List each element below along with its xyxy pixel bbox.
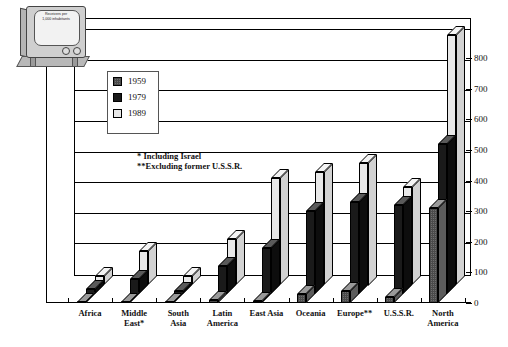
bar-1959-eastasia	[253, 301, 262, 303]
category-label-line: Middle	[112, 308, 156, 318]
value-axis-label: 200	[474, 238, 488, 247]
footnote-ussr: **Excluding former U.S.S.R.	[137, 161, 242, 171]
bar-side	[359, 193, 368, 294]
bar-side	[412, 178, 421, 285]
legend-swatch-1979	[113, 93, 122, 102]
chart-screenshot: 0100200300400500600700800 AfricaMiddleEa…	[0, 0, 508, 347]
television-icon: Receivers per 1,000 inhabitants	[18, 4, 94, 70]
category-label-line: East*	[112, 318, 156, 328]
bar-side	[368, 154, 377, 286]
legend-swatch-1959	[113, 77, 122, 86]
bar-side	[271, 239, 280, 294]
gridline	[75, 60, 470, 61]
tv-caption-line2: 1,000 inhabitants	[36, 17, 76, 22]
chart-legend: 1959 1979 1989	[107, 71, 159, 134]
bar-side	[236, 230, 245, 285]
plot-area	[46, 18, 471, 303]
legend-item-1989: 1989	[113, 109, 158, 118]
bar-face	[209, 300, 218, 303]
bar-face	[130, 279, 139, 294]
tv-knob	[73, 47, 81, 55]
value-axis-label: 400	[474, 177, 488, 186]
legend-item-1979: 1979	[113, 93, 158, 102]
bar-1979-eastasia	[262, 248, 271, 294]
bar-1959-oceania	[297, 294, 306, 303]
legend-swatch-1989	[113, 109, 122, 118]
value-axis-tick	[466, 119, 472, 120]
category-label-southasia: SouthAsia	[156, 308, 200, 328]
legend-label-1979: 1979	[128, 93, 146, 102]
value-axis-label: 300	[474, 207, 488, 216]
value-axis-label: 800	[474, 54, 488, 63]
bar-1959-ussr	[385, 297, 394, 303]
category-tick	[465, 298, 466, 303]
bar-side	[324, 163, 333, 285]
category-label-latinamerica: LatinAmerica	[200, 308, 244, 328]
value-axis-label: 100	[474, 268, 488, 277]
chart-footnotes: * Including Israel **Excluding former U.…	[137, 151, 242, 171]
value-axis-tick	[466, 211, 472, 212]
legend-item-1959: 1959	[113, 77, 158, 86]
category-tick	[421, 298, 422, 303]
category-label-line: North	[421, 308, 465, 318]
gridline	[75, 152, 470, 153]
category-tick	[377, 298, 378, 303]
bar-face	[262, 248, 271, 294]
category-label-northamerica: NorthAmerica	[421, 308, 465, 328]
gridline	[75, 29, 470, 30]
bar-side	[403, 196, 412, 294]
category-label-line: Asia	[156, 318, 200, 328]
bar-1979-middleeast	[130, 279, 139, 294]
bar-1979-oceania	[306, 211, 315, 294]
bar-side	[280, 169, 289, 285]
legend-label-1989: 1989	[128, 109, 146, 118]
bar-1959-latinamerica	[209, 300, 218, 303]
category-label-line: America	[200, 318, 244, 328]
value-axis-tick	[466, 272, 472, 273]
bar-face	[385, 297, 394, 303]
value-axis-label: 600	[474, 115, 488, 124]
bar-side	[315, 202, 324, 294]
category-tick	[156, 298, 157, 303]
value-axis-tick	[466, 58, 472, 59]
category-label-line: South	[156, 308, 200, 318]
value-axis-tick	[466, 150, 472, 151]
bar-1959-southasia	[165, 302, 174, 304]
tv-knob	[62, 47, 70, 55]
category-label-ussr: U.S.S.R.	[377, 308, 421, 318]
bar-1979-latinamerica	[218, 266, 227, 294]
value-axis-label: 0	[474, 299, 479, 308]
value-axis-tick	[466, 303, 472, 304]
bar-face	[394, 205, 403, 294]
bar-face	[306, 211, 315, 294]
bar-1959-europe	[341, 291, 350, 303]
value-axis-tick	[466, 242, 472, 243]
bar-side	[447, 135, 456, 294]
category-label-eastasia: East Asia	[244, 308, 288, 318]
value-axis-tick	[466, 89, 472, 90]
category-axis: AfricaMiddleEast*SouthAsiaLatinAmericaEa…	[46, 306, 471, 344]
value-axis-tick	[466, 181, 472, 182]
tv-screen-caption: Receivers per 1,000 inhabitants	[36, 12, 76, 21]
bar-1959-africa	[77, 302, 86, 304]
category-tick	[68, 298, 69, 303]
category-label-oceania: Oceania	[289, 308, 333, 318]
category-tick	[200, 298, 201, 303]
bar-1959-middleeast	[121, 302, 130, 304]
value-axis-label: 500	[474, 146, 488, 155]
category-label-middleeast: MiddleEast*	[112, 308, 156, 328]
bar-side	[456, 26, 465, 285]
value-axis-label: 700	[474, 85, 488, 94]
bar-face	[218, 266, 227, 294]
category-tick	[289, 298, 290, 303]
category-label-africa: Africa	[68, 308, 112, 318]
bar-1979-europe	[350, 202, 359, 294]
value-axis: 0100200300400500600700800	[466, 18, 508, 313]
bar-side	[438, 199, 447, 303]
bar-face	[341, 291, 350, 303]
legend-label-1959: 1959	[128, 77, 146, 86]
bar-face	[350, 202, 359, 294]
footnote-israel: * Including Israel	[137, 151, 242, 161]
category-tick	[112, 298, 113, 303]
category-tick	[333, 298, 334, 303]
